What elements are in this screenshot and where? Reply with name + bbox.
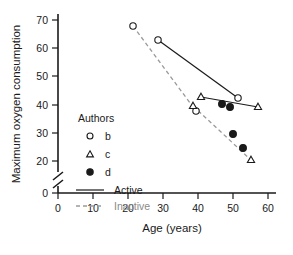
x-axis-title: Age (years) (142, 222, 202, 234)
point-b-active-2 (235, 95, 241, 101)
x-tick-label-30: 30 (157, 202, 169, 214)
y-tick-label-40: 40 (36, 99, 48, 111)
legend-label-active: Active (114, 184, 143, 196)
x-tick-label-60: 60 (262, 202, 274, 214)
legend-label-c: c (105, 148, 110, 160)
x-tick-label-50: 50 (227, 202, 239, 214)
point-b-active-1 (155, 37, 161, 43)
y-tick-label-60: 60 (36, 42, 48, 54)
point-d-inactive-2 (240, 145, 247, 152)
legend-marker-filled-circle-icon (87, 169, 93, 175)
y-tick-label-30: 30 (36, 127, 48, 139)
y-tick-label-20: 20 (36, 155, 48, 167)
y-tick-label-0: 0 (42, 187, 48, 199)
x-tick-label-0: 0 (55, 202, 61, 214)
chart-figure: 70 60 50 40 30 20 0 Maximum oxygen consu… (0, 0, 293, 255)
legend-marker-open-circle-icon (87, 133, 93, 139)
point-d-active-1 (219, 101, 226, 108)
y-tick-label-50: 50 (36, 70, 48, 82)
legend-label-d: d (105, 166, 111, 178)
point-b-inactive-1 (130, 23, 136, 29)
legend-title: Authors (78, 112, 114, 124)
point-d-active-2 (227, 104, 234, 111)
legend-label-inactive: Inactive (114, 200, 150, 212)
y-axis-title: Maximum oxygen consumption (10, 25, 22, 184)
point-d-inactive-1 (230, 131, 237, 138)
x-tick-label-40: 40 (192, 202, 204, 214)
legend-label-b: b (105, 130, 111, 142)
x-tick-label-10: 10 (87, 202, 99, 214)
y-tick-label-70: 70 (36, 14, 48, 26)
